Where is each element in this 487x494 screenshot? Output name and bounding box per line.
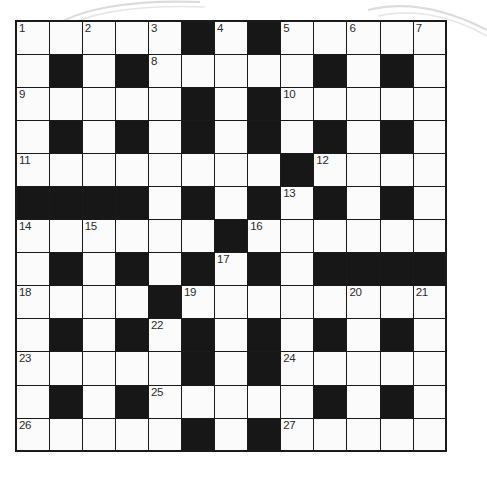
- crossword-cell[interactable]: [281, 319, 314, 352]
- crossword-cell[interactable]: [115, 418, 148, 451]
- crossword-cell[interactable]: [215, 319, 248, 352]
- crossword-cell[interactable]: [82, 385, 115, 418]
- crossword-cell[interactable]: [16, 54, 49, 87]
- crossword-cell[interactable]: [347, 220, 380, 253]
- crossword-cell[interactable]: [148, 418, 181, 451]
- crossword-cell[interactable]: [82, 153, 115, 186]
- crossword-cell[interactable]: [82, 418, 115, 451]
- crossword-cell[interactable]: 16: [248, 220, 281, 253]
- crossword-cell[interactable]: 8: [148, 54, 181, 87]
- crossword-cell[interactable]: 24: [281, 352, 314, 385]
- crossword-cell[interactable]: [82, 54, 115, 87]
- crossword-cell[interactable]: [82, 319, 115, 352]
- crossword-cell[interactable]: [413, 418, 446, 451]
- crossword-cell[interactable]: [413, 385, 446, 418]
- crossword-cell[interactable]: [148, 153, 181, 186]
- crossword-cell[interactable]: 10: [281, 87, 314, 120]
- crossword-cell[interactable]: [215, 352, 248, 385]
- crossword-cell[interactable]: [181, 385, 214, 418]
- crossword-cell[interactable]: [181, 153, 214, 186]
- crossword-cell[interactable]: [314, 87, 347, 120]
- crossword-cell[interactable]: [380, 352, 413, 385]
- crossword-cell[interactable]: 23: [16, 352, 49, 385]
- crossword-cell[interactable]: [347, 418, 380, 451]
- crossword-cell[interactable]: [115, 286, 148, 319]
- crossword-cell[interactable]: [215, 54, 248, 87]
- crossword-cell[interactable]: [380, 220, 413, 253]
- crossword-cell[interactable]: [49, 220, 82, 253]
- crossword-cell[interactable]: [281, 253, 314, 286]
- crossword-cell[interactable]: 11: [16, 153, 49, 186]
- crossword-cell[interactable]: [115, 352, 148, 385]
- crossword-cell[interactable]: [380, 21, 413, 54]
- crossword-cell[interactable]: [49, 153, 82, 186]
- crossword-cell[interactable]: [49, 352, 82, 385]
- crossword-cell[interactable]: 1: [16, 21, 49, 54]
- crossword-cell[interactable]: 6: [347, 21, 380, 54]
- crossword-cell[interactable]: [281, 286, 314, 319]
- crossword-cell[interactable]: [16, 319, 49, 352]
- crossword-cell[interactable]: [347, 54, 380, 87]
- crossword-cell[interactable]: 26: [16, 418, 49, 451]
- crossword-cell[interactable]: [115, 220, 148, 253]
- crossword-cell[interactable]: [314, 418, 347, 451]
- crossword-cell[interactable]: 22: [148, 319, 181, 352]
- crossword-cell[interactable]: [248, 54, 281, 87]
- crossword-cell[interactable]: 27: [281, 418, 314, 451]
- crossword-cell[interactable]: [82, 253, 115, 286]
- crossword-cell[interactable]: [347, 385, 380, 418]
- crossword-cell[interactable]: [281, 54, 314, 87]
- crossword-cell[interactable]: [413, 153, 446, 186]
- crossword-cell[interactable]: 19: [181, 286, 214, 319]
- crossword-cell[interactable]: 14: [16, 220, 49, 253]
- crossword-cell[interactable]: [413, 120, 446, 153]
- crossword-cell[interactable]: [16, 385, 49, 418]
- crossword-cell[interactable]: 18: [16, 286, 49, 319]
- crossword-cell[interactable]: [49, 21, 82, 54]
- crossword-grid[interactable]: 1234567891011121314151617181920212223242…: [15, 20, 447, 452]
- crossword-cell[interactable]: 21: [413, 286, 446, 319]
- crossword-cell[interactable]: [347, 186, 380, 219]
- crossword-cell[interactable]: [16, 253, 49, 286]
- crossword-cell[interactable]: [115, 153, 148, 186]
- crossword-cell[interactable]: [181, 54, 214, 87]
- crossword-cell[interactable]: [49, 286, 82, 319]
- crossword-cell[interactable]: 3: [148, 21, 181, 54]
- crossword-cell[interactable]: 25: [148, 385, 181, 418]
- crossword-cell[interactable]: [148, 120, 181, 153]
- crossword-cell[interactable]: [380, 418, 413, 451]
- crossword-cell[interactable]: [148, 186, 181, 219]
- crossword-cell[interactable]: 9: [16, 87, 49, 120]
- crossword-cell[interactable]: [115, 21, 148, 54]
- crossword-cell[interactable]: [314, 21, 347, 54]
- crossword-cell[interactable]: [82, 286, 115, 319]
- crossword-cell[interactable]: [413, 186, 446, 219]
- crossword-cell[interactable]: [215, 186, 248, 219]
- crossword-cell[interactable]: [248, 385, 281, 418]
- crossword-cell[interactable]: [347, 87, 380, 120]
- crossword-cell[interactable]: [215, 87, 248, 120]
- crossword-cell[interactable]: [148, 352, 181, 385]
- crossword-cell[interactable]: 20: [347, 286, 380, 319]
- crossword-cell[interactable]: [380, 153, 413, 186]
- crossword-cell[interactable]: [314, 220, 347, 253]
- crossword-cell[interactable]: [347, 319, 380, 352]
- crossword-cell[interactable]: 4: [215, 21, 248, 54]
- crossword-cell[interactable]: [215, 385, 248, 418]
- crossword-cell[interactable]: 2: [82, 21, 115, 54]
- crossword-cell[interactable]: [281, 385, 314, 418]
- crossword-cell[interactable]: [49, 418, 82, 451]
- crossword-cell[interactable]: [281, 220, 314, 253]
- crossword-cell[interactable]: 17: [215, 253, 248, 286]
- crossword-cell[interactable]: [347, 352, 380, 385]
- crossword-cell[interactable]: [215, 286, 248, 319]
- crossword-cell[interactable]: [413, 87, 446, 120]
- crossword-cell[interactable]: [413, 220, 446, 253]
- crossword-cell[interactable]: [413, 54, 446, 87]
- crossword-cell[interactable]: [380, 286, 413, 319]
- crossword-cell[interactable]: [148, 253, 181, 286]
- crossword-cell[interactable]: [82, 87, 115, 120]
- crossword-cell[interactable]: [148, 87, 181, 120]
- crossword-cell[interactable]: [248, 286, 281, 319]
- crossword-cell[interactable]: [314, 352, 347, 385]
